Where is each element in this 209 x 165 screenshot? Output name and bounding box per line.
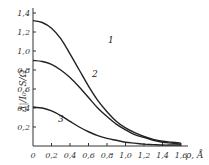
x-tick-label: 1,2: [138, 151, 151, 160]
curve-label-1: 1: [108, 35, 114, 45]
curve-label-3: 3: [58, 114, 64, 124]
curve-label-2: 2: [91, 69, 98, 79]
x-tick-label: 0,2: [45, 151, 58, 160]
x-tick-label: 0,6: [82, 151, 95, 160]
y-tick-label: 1,4: [17, 9, 30, 18]
x-tick-label: 0,8: [101, 151, 114, 160]
x-tick-label: 0,4: [64, 151, 77, 160]
chart: 00,20,40,60,81,01,21,41,6 0,20,40,60,81,…: [0, 0, 209, 165]
axes: [33, 8, 188, 146]
x-tick-label: 1,4: [156, 151, 169, 160]
x-tick-label: 0: [30, 151, 35, 160]
curve-2: [33, 61, 181, 145]
y-tick-label: 1,0: [17, 47, 30, 56]
y-tick-label: 1,2: [17, 28, 30, 37]
x-axis-title: ρ, Å: [185, 149, 204, 160]
x-tick-label: 1,0: [119, 151, 132, 160]
curves: [33, 21, 181, 145]
y-axis-title: Δ|/I₀, S/Ω: [18, 69, 29, 113]
curve-1: [33, 21, 181, 144]
y-tick-label: 0,2: [17, 123, 30, 132]
